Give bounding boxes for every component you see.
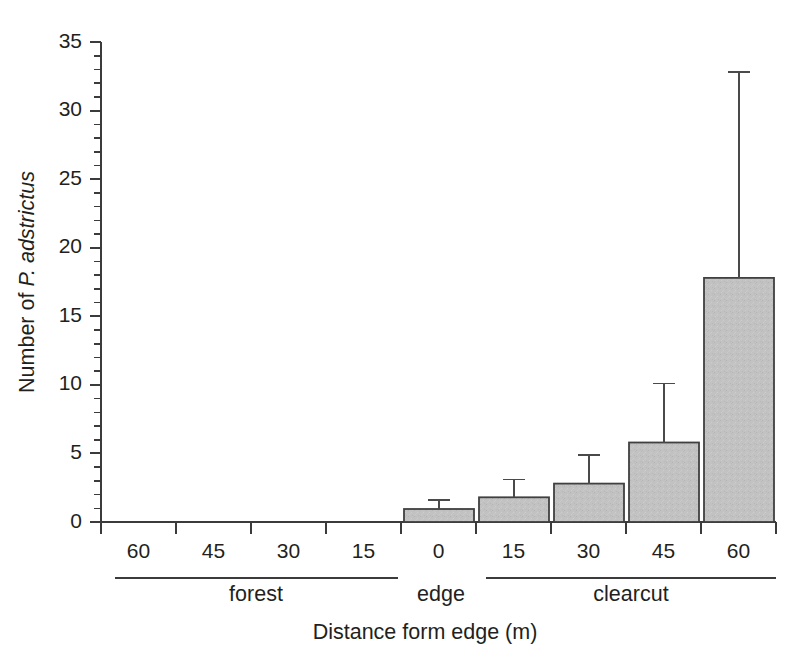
- x-tick-label: 45: [652, 539, 675, 562]
- x-tick-label: 15: [502, 539, 525, 562]
- x-tick-label: 45: [202, 539, 225, 562]
- y-tick-label: 0: [70, 509, 82, 532]
- bar: [479, 497, 549, 522]
- bar: [629, 443, 699, 523]
- y-tick-label: 20: [59, 234, 82, 257]
- y-tick-label: 15: [59, 303, 82, 326]
- bar: [554, 484, 624, 522]
- x-tick-label: 0: [433, 539, 445, 562]
- y-tick-label: 35: [59, 29, 82, 52]
- bar: [404, 509, 474, 522]
- x-axis-title: Distance form edge (m): [313, 620, 538, 644]
- bar-chart-figure: 0 5 10 15 20 25 30 35 Number of P. adstr…: [0, 0, 785, 664]
- figure-background: [0, 0, 785, 664]
- x-tick-label: 60: [127, 539, 150, 562]
- group-label-forest: forest: [229, 582, 283, 606]
- x-axis-tick-labels: 60 45 30 15 0 15 30 45 60: [127, 539, 750, 562]
- x-tick-label: 60: [727, 539, 750, 562]
- y-axis-title-prefix: Number of: [15, 287, 39, 393]
- y-tick-label: 30: [59, 97, 82, 120]
- y-tick-label: 25: [59, 166, 82, 189]
- y-tick-label: 5: [70, 440, 82, 463]
- x-tick-label: 15: [352, 539, 375, 562]
- y-axis-title-species: P. adstrictus: [15, 171, 39, 287]
- group-label-edge: edge: [417, 582, 465, 606]
- x-tick-label: 30: [577, 539, 600, 562]
- y-axis-title: Number of P. adstrictus: [15, 171, 39, 393]
- y-tick-label: 10: [59, 371, 82, 394]
- group-label-clearcut: clearcut: [593, 582, 668, 606]
- x-tick-label: 30: [277, 539, 300, 562]
- bar: [704, 278, 774, 522]
